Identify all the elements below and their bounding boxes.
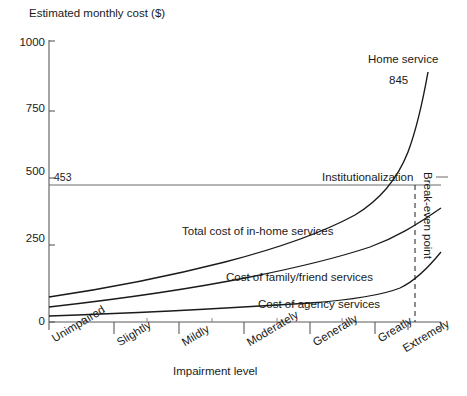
home-service-annotation: Home service	[368, 54, 438, 66]
institutionalization-label: Institutionalization	[322, 172, 413, 184]
series-cost-of-family-friend-services	[49, 208, 441, 307]
y-tick-label-250: 250	[11, 233, 45, 245]
y-tick-label-750: 750	[11, 103, 45, 115]
y-tick-label-0: 0	[11, 316, 45, 328]
chart-figure: Estimated monthly cost ($) Impairment le…	[0, 0, 467, 396]
series-cost-of-agency-services	[49, 252, 441, 316]
y-tick-label-500: 500	[11, 166, 45, 178]
home-service-value-annotation: 845	[389, 75, 408, 87]
y-axis-title: Estimated monthly cost ($)	[29, 8, 165, 20]
series-label-cost-of-family-friend-services: Cost of family/friend services	[226, 272, 373, 284]
y-tick-label-1000: 1000	[11, 37, 45, 49]
institutionalization-value-label: 453	[54, 172, 72, 183]
series-label-total-cost-of-in-home-services: Total cost of in-home services	[182, 226, 333, 238]
x-axis-title: Impairment level	[173, 366, 257, 378]
x-axis-minor-ticks	[82, 318, 342, 322]
breakeven-point-label: Break-even point	[421, 172, 433, 259]
series-label-cost-of-agency-services: Cost of agency services	[258, 299, 380, 311]
